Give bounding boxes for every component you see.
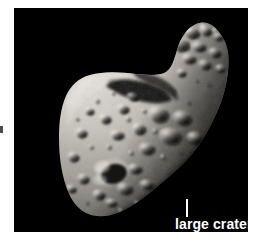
large-crater-label: large crater	[175, 216, 248, 232]
asteroid-figure: large crater	[0, 0, 262, 246]
photo-panel: large crater	[14, 8, 248, 232]
edge-speck	[0, 126, 3, 133]
large-crater-leader-line	[186, 199, 188, 217]
asteroid-photo	[14, 8, 248, 232]
